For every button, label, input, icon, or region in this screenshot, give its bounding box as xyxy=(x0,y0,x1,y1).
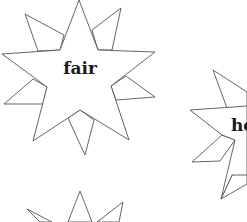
star-back-spike xyxy=(25,14,64,51)
star-word: he xyxy=(231,115,247,135)
star-card-he[interactable]: he xyxy=(190,70,247,199)
star-back-spike xyxy=(213,70,247,108)
star-back-spike xyxy=(192,135,235,162)
star-back-spike xyxy=(92,8,121,50)
star-back-spike xyxy=(97,202,123,222)
star-front xyxy=(68,191,92,222)
star-word: fair xyxy=(63,58,98,78)
word-stars-canvas: fair he xyxy=(0,0,247,222)
star-back-spike xyxy=(27,209,52,222)
star-card-fair[interactable]: fair xyxy=(2,0,155,155)
star-card-bottom[interactable] xyxy=(27,191,123,222)
star-back-spike xyxy=(68,110,94,155)
